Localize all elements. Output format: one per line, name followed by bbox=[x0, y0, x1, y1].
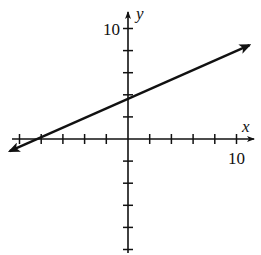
x-tick-label-10: 10 bbox=[228, 149, 245, 168]
line-series bbox=[10, 45, 250, 151]
x-axis-label: x bbox=[241, 117, 250, 136]
y-tick-label-10: 10 bbox=[103, 20, 120, 39]
y-axis-label: y bbox=[134, 4, 144, 23]
coordinate-plane: 10 10 x y bbox=[0, 0, 261, 255]
